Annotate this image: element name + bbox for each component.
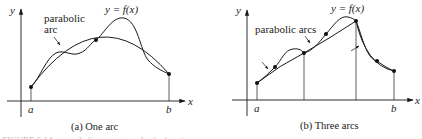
point-x3: [324, 32, 328, 36]
arc-arrow-1: [262, 62, 268, 69]
function-label: y = f(x): [330, 2, 364, 15]
label-a: a: [254, 102, 260, 114]
figure-caption-partial: FIGURE 6.14 ... parabolic arcs ... graph…: [2, 135, 194, 139]
parabolic-arc: [31, 37, 169, 87]
parabolic-arc-1: [257, 53, 304, 83]
y-axis-label: y: [9, 4, 15, 16]
point-mid: [94, 38, 98, 42]
point-x2: [302, 51, 306, 55]
figure-canvas: y x a b y = f(x) parabolic arc (a) One a…: [0, 0, 422, 139]
parabolic-arc-3: [356, 21, 394, 71]
annotation-arc: arc: [44, 23, 58, 35]
label-a: a: [28, 103, 34, 115]
point-x1: [273, 65, 277, 69]
arc-arrow-3: [351, 46, 359, 51]
caption-b: (b) Three arcs: [300, 120, 359, 132]
point-x5: [375, 59, 379, 63]
y-axis-label: y: [235, 4, 241, 16]
arc-arrow-2: [305, 36, 310, 43]
label-b: b: [391, 102, 397, 114]
annotation-arrow: [54, 37, 60, 45]
caption-a: (a) One arc: [71, 121, 119, 133]
point-a: [29, 85, 33, 89]
function-label: y = f(x): [104, 3, 138, 16]
panel-one-arc: y x a b y = f(x) parabolic arc (a) One a…: [7, 3, 193, 133]
point-x6: [392, 69, 396, 73]
point-x4: [354, 19, 358, 23]
panel-three-arcs: y x a b y = f(x) parabolic arcs (b) Thre…: [232, 2, 420, 132]
x-axis-label: x: [414, 94, 420, 106]
annotation-parabolic-arcs: parabolic arcs: [255, 23, 316, 35]
label-b: b: [166, 103, 172, 115]
point-b: [167, 72, 171, 76]
x-axis-label: x: [187, 95, 193, 107]
point-x0: [255, 81, 259, 85]
